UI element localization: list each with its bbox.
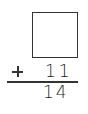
addend: 11 <box>45 63 73 80</box>
sum: 14 <box>43 84 69 101</box>
answer-box[interactable] <box>32 12 78 58</box>
plus-sign-icon <box>12 66 23 77</box>
